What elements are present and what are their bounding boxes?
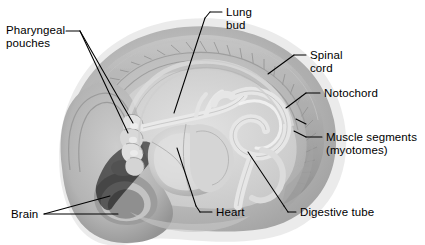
label-muscle-segments: Muscle segments (myotomes) xyxy=(326,131,417,156)
label-spinal-cord: Spinal cord xyxy=(310,49,343,74)
label-pharyngeal-pouches: Pharyngeal pouches xyxy=(6,24,65,49)
embryo-figure: Pharyngeal pouches Lung bud Spinal cord … xyxy=(0,0,425,245)
leader-lungbud-b xyxy=(205,12,210,18)
label-digestive-tube: Digestive tube xyxy=(300,206,374,219)
label-brain: Brain xyxy=(11,208,38,221)
label-lung-bud: Lung bud xyxy=(226,6,252,31)
heart-structure xyxy=(148,124,234,196)
label-heart: Heart xyxy=(216,206,245,219)
label-notochord: Notochord xyxy=(324,87,378,100)
